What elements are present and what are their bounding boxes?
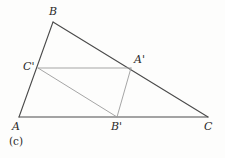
vertex-label-b: B <box>49 6 57 17</box>
figure-caption: (c) <box>9 136 23 147</box>
segment-CpBp <box>38 68 117 117</box>
vertex-label-a: A <box>12 121 20 132</box>
vertex-label-c-prime: C' <box>23 61 34 72</box>
figure-canvas <box>0 0 225 158</box>
segment-ApBp <box>117 68 131 117</box>
vertex-label-a-prime: A' <box>134 54 145 65</box>
inner-parallelogram <box>38 68 131 117</box>
vertex-label-b-prime: B' <box>111 121 122 132</box>
vertex-label-c: C <box>204 121 212 132</box>
geometry-figure: A B C A' B' C' (c) <box>0 0 225 158</box>
outer-triangle <box>19 22 208 117</box>
